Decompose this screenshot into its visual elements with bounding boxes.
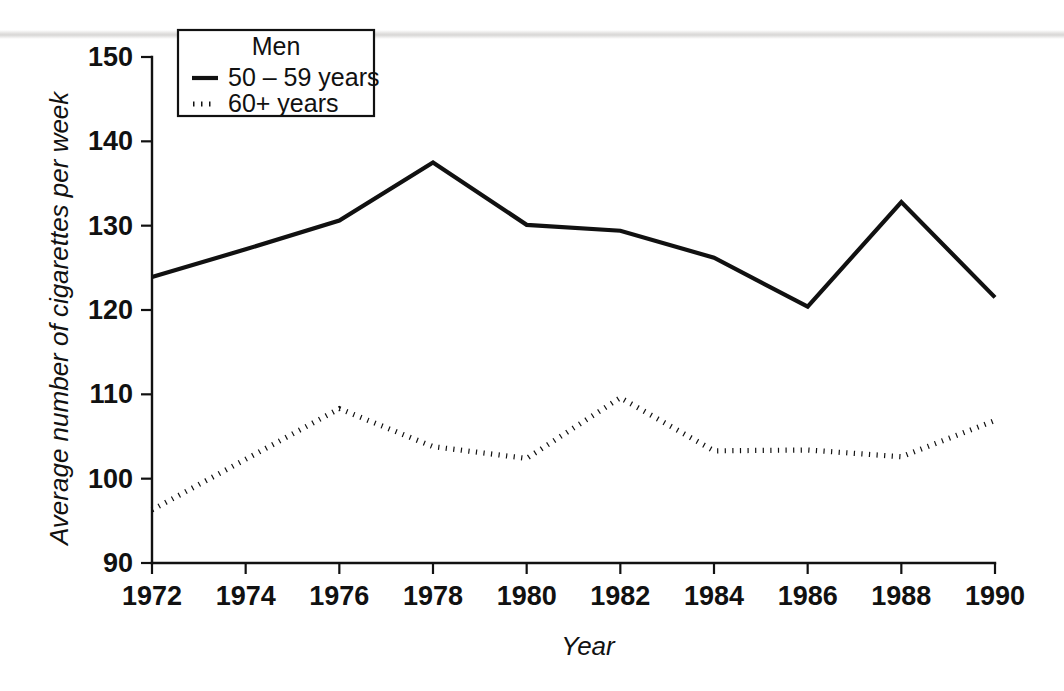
y-axis-title: Average number of cigarettes per week [44, 90, 74, 547]
legend-title: Men [252, 32, 301, 60]
x-tick-label: 1978 [403, 581, 463, 611]
legend-label-60-plus: 60+ years [228, 89, 339, 117]
y-tick-label: 130 [88, 211, 133, 241]
x-tick-label: 1972 [122, 581, 182, 611]
x-tick-label: 1976 [309, 581, 369, 611]
y-tick-label: 110 [89, 379, 133, 409]
y-tick-label: 90 [103, 548, 133, 578]
x-tick-label: 1974 [216, 581, 276, 611]
y-tick-label: 120 [88, 295, 133, 325]
x-tick-label: 1988 [871, 581, 931, 611]
series-line-solid [152, 162, 995, 306]
legend-label-50-59: 50 – 59 years [228, 63, 380, 91]
x-axis-ticks: 1972197419761978198019821984198619881990 [122, 563, 1025, 611]
chart-axes [152, 57, 995, 563]
x-tick-label: 1982 [590, 581, 650, 611]
x-axis-title: Year [561, 631, 616, 661]
x-tick-label: 1986 [778, 581, 838, 611]
x-tick-label: 1984 [684, 581, 744, 611]
line-chart: 90100110120130140150 1972197419761978198… [0, 0, 1064, 691]
series-line-dotted [152, 398, 995, 510]
x-tick-label: 1990 [965, 581, 1025, 611]
chart-legend: Men 50 – 59 years 60+ years [178, 30, 380, 117]
chart-series-layer [152, 162, 995, 509]
x-tick-label: 1980 [497, 581, 557, 611]
y-axis-ticks: 90100110120130140150 [88, 42, 152, 578]
y-tick-label: 140 [88, 126, 133, 156]
y-tick-label: 150 [88, 42, 133, 72]
y-tick-label: 100 [88, 464, 133, 494]
